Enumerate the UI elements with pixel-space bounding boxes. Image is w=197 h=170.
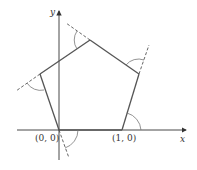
x-axis-label: x bbox=[180, 134, 185, 144]
origin-label: (0, 0) bbox=[35, 133, 59, 143]
side-right bbox=[122, 74, 139, 130]
pentagon bbox=[40, 40, 139, 130]
arc-unit bbox=[127, 113, 141, 130]
side-left bbox=[40, 74, 59, 130]
side-upper-left bbox=[40, 40, 90, 74]
extension-bottom bbox=[59, 130, 69, 158]
arc-right bbox=[126, 59, 144, 65]
extension-top bbox=[66, 23, 90, 40]
side-upper-right bbox=[90, 40, 139, 74]
arc-top bbox=[74, 31, 77, 49]
pentagon-diagram: y x (0, 0) (1, 0) bbox=[0, 0, 197, 170]
y-axis-label: y bbox=[49, 7, 56, 17]
unit-point-label: (1, 0) bbox=[112, 133, 136, 143]
arc-origin bbox=[65, 130, 78, 148]
arc-left bbox=[27, 83, 44, 90]
extension-left bbox=[16, 74, 40, 91]
